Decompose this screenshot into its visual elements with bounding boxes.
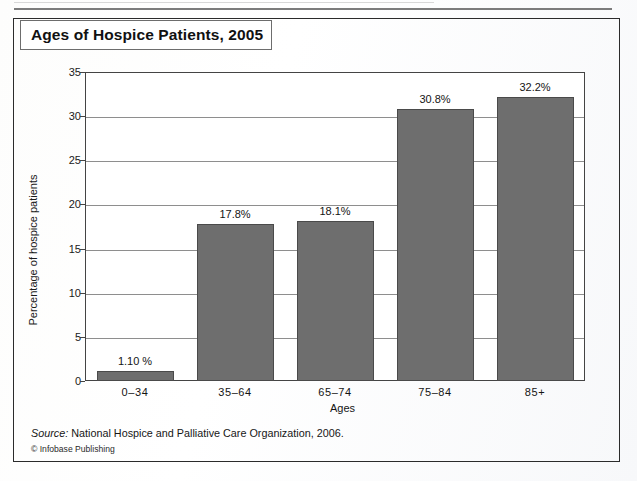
page-rule bbox=[14, 8, 612, 10]
source-keyword: Source: bbox=[31, 427, 68, 439]
y-tick-label: 10 bbox=[55, 287, 81, 299]
x-axis-title-text: Ages bbox=[330, 402, 355, 414]
bar-value-label: 30.8% bbox=[419, 93, 450, 105]
bar-value-label: 32.2% bbox=[519, 81, 550, 93]
y-tick-label: 30 bbox=[55, 110, 81, 122]
y-tick-label: 5 bbox=[55, 331, 81, 343]
y-tick-label: 35 bbox=[55, 66, 81, 78]
x-tick-label: 65–74 bbox=[318, 386, 352, 398]
y-tick-label: 25 bbox=[55, 154, 81, 166]
copyright-note: © Infobase Publishing bbox=[31, 444, 115, 454]
bar-value-label: 17.8% bbox=[219, 208, 250, 220]
source-text: National Hospice and Palliative Care Org… bbox=[68, 427, 343, 439]
y-tick-mark bbox=[80, 337, 85, 338]
y-tick-mark bbox=[80, 160, 85, 161]
y-tick-mark bbox=[80, 72, 85, 73]
y-tick-label: 20 bbox=[55, 198, 81, 210]
y-axis-title: Percentage of hospice patients bbox=[27, 150, 39, 350]
y-tick-mark bbox=[80, 381, 85, 382]
bar-value-label: 1.10 % bbox=[118, 355, 152, 367]
y-tick-mark bbox=[80, 293, 85, 294]
bar bbox=[297, 221, 374, 381]
x-tick-label: 35–64 bbox=[218, 386, 252, 398]
x-axis-title: Ages bbox=[0, 402, 637, 414]
x-tick-label: 85+ bbox=[525, 386, 545, 398]
figure-title-plate: Ages of Hospice Patients, 2005 bbox=[20, 20, 272, 50]
bar-value-label: 18.1% bbox=[319, 205, 350, 217]
y-tick-label: 15 bbox=[55, 243, 81, 255]
y-tick-label: 0 bbox=[55, 375, 81, 387]
source-note: Source: National Hospice and Palliative … bbox=[31, 427, 344, 439]
page-title: Ages of Hospice Patients, 2005 bbox=[31, 26, 263, 44]
x-tick-label: 75–84 bbox=[418, 386, 452, 398]
x-tick-label: 0–34 bbox=[122, 386, 149, 398]
bar bbox=[197, 224, 274, 381]
y-tick-mark bbox=[80, 116, 85, 117]
y-tick-mark bbox=[80, 249, 85, 250]
page-rule-faint bbox=[14, 2, 434, 3]
bar bbox=[497, 97, 574, 381]
y-axis: 05101520253035 bbox=[51, 72, 81, 381]
bar bbox=[97, 371, 174, 381]
bar bbox=[397, 109, 474, 381]
y-tick-mark bbox=[80, 204, 85, 205]
